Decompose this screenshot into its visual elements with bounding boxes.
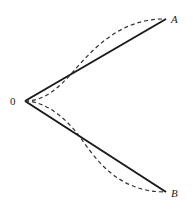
solid-line-0-b — [25, 101, 166, 192]
label-b: B — [171, 187, 178, 199]
solid-line-0-a — [25, 19, 166, 101]
label-a: A — [170, 13, 178, 25]
label-origin: 0 — [10, 95, 16, 107]
diagram-canvas: 0 A B — [0, 0, 193, 211]
